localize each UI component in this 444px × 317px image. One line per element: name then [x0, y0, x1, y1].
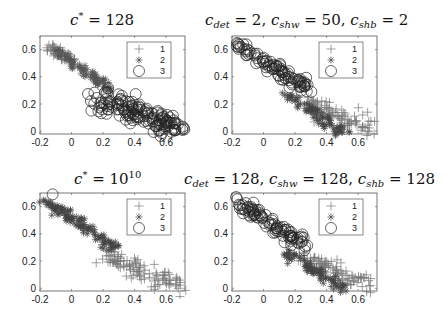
legend-label: 1 [160, 44, 165, 54]
legend: 123 [319, 42, 363, 78]
y-tick-label: 0.4 [214, 228, 228, 239]
x-tick-label: -0.2 [31, 294, 49, 305]
y-tick-label: 0 [222, 126, 228, 137]
y-tick-label: 0.2 [22, 99, 36, 110]
y-tick-label: 0.4 [22, 228, 36, 239]
y-tick-label: 0.2 [22, 256, 36, 267]
x-tick-label: 0.2 [288, 137, 302, 148]
legend-label: 2 [160, 212, 165, 222]
legend-label: 1 [352, 201, 357, 211]
scatter-panel-bottom-right: -0.200.20.40.600.20.40.6123 [214, 192, 377, 305]
y-tick-label: 0 [222, 283, 228, 294]
x-tick-label: 0 [261, 137, 267, 148]
x-tick-label: 0.4 [128, 294, 142, 305]
x-tick-label: 0.2 [288, 294, 302, 305]
legend-label: 2 [160, 55, 165, 65]
y-tick-label: 0.2 [214, 256, 228, 267]
x-tick-label: 0.4 [128, 137, 142, 148]
panel-title-top-right: cdet = 2, cshw = 50, cshb = 2 [205, 11, 408, 30]
y-tick-label: 0.4 [22, 71, 36, 82]
y-tick-label: 0.4 [214, 71, 228, 82]
y-tick-label: 0.6 [22, 44, 36, 55]
y-tick-label: 0.6 [214, 201, 228, 212]
x-tick-label: 0 [261, 294, 267, 305]
x-tick-label: 0.4 [320, 137, 334, 148]
scatter-panel-bottom-left: -0.200.20.40.600.20.40.6123 [22, 189, 190, 305]
y-tick-label: 0 [30, 126, 36, 137]
x-tick-label: -0.2 [223, 137, 241, 148]
legend-label: 2 [352, 212, 357, 222]
legend-label: 3 [352, 66, 357, 76]
legend-label: 3 [160, 66, 165, 76]
legend-label: 2 [352, 55, 357, 65]
legend-label: 3 [352, 223, 357, 233]
x-tick-label: 0.2 [96, 294, 110, 305]
x-tick-label: 0.4 [320, 294, 334, 305]
x-tick-label: -0.2 [31, 137, 49, 148]
panel-title-bottom-right: cdet = 128, cshw = 128, cshb = 128 [184, 170, 435, 189]
y-tick-label: 0.6 [214, 44, 228, 55]
x-tick-label: 0 [69, 137, 75, 148]
y-tick-label: 0.2 [214, 99, 228, 110]
x-tick-label: -0.2 [223, 294, 241, 305]
legend: 123 [319, 199, 363, 235]
legend: 123 [127, 199, 171, 235]
figure: c* = 128 cdet = 2, cshw = 50, cshb = 2 c… [0, 0, 444, 317]
x-tick-label: 0.6 [159, 294, 173, 305]
legend: 123 [127, 42, 171, 78]
y-tick-label: 0 [30, 283, 36, 294]
panel-title-top-left: c* = 128 [70, 10, 134, 29]
x-tick-label: 0.2 [96, 137, 110, 148]
scatter-panel-top-right: -0.200.20.40.600.20.40.6123 [214, 36, 379, 148]
y-tick-label: 0.6 [22, 201, 36, 212]
x-tick-label: 0 [69, 294, 75, 305]
legend-label: 1 [160, 201, 165, 211]
x-tick-label: 0.6 [351, 294, 365, 305]
legend-label: 1 [352, 44, 357, 54]
x-tick-label: 0.6 [351, 137, 365, 148]
scatter-panel-top-left: -0.200.20.40.600.20.40.6123 [22, 36, 190, 148]
legend-label: 3 [160, 223, 165, 233]
panel-title-bottom-left: c* = 1010 [74, 169, 141, 188]
